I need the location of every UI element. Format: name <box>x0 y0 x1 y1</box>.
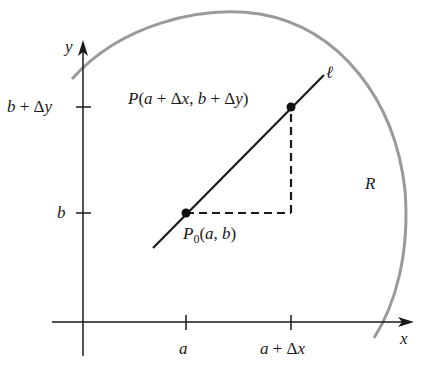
point-p0 <box>182 209 191 218</box>
tick-label-a: a <box>179 340 188 357</box>
tick-label-b-plus-dy: b + Δy <box>7 98 52 115</box>
point-p <box>287 103 296 112</box>
region-boundary-arc <box>72 12 406 338</box>
x-axis-label: x <box>400 330 408 347</box>
y-axis-label: y <box>65 38 73 55</box>
point-p-label: P(a + Δx, b + Δy) <box>128 90 248 107</box>
line-l-label: ℓ <box>326 64 333 81</box>
region-r-label: R <box>365 175 375 192</box>
tick-label-b: b <box>57 204 66 221</box>
tick-label-a-plus-dx: a + Δx <box>260 340 305 357</box>
point-p0-label: P0(a, b) <box>183 225 236 245</box>
